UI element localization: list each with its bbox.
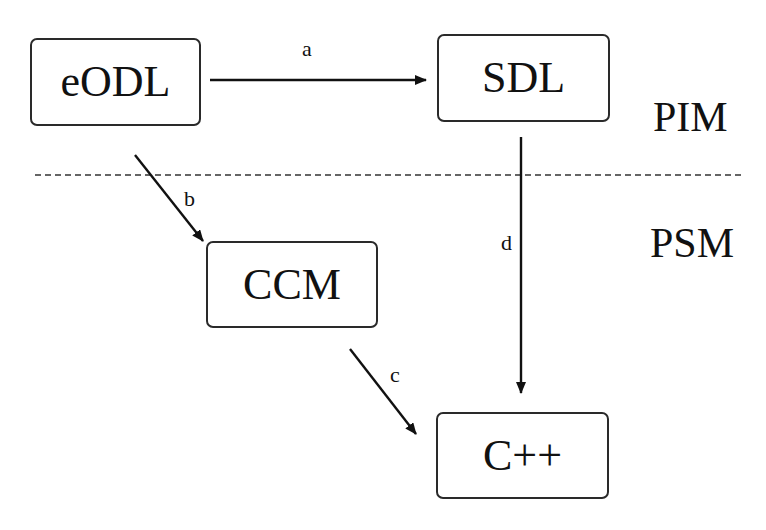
node-eodl-label: eODL bbox=[61, 60, 171, 104]
edge-d-label: d bbox=[501, 232, 512, 254]
edge-a-label: a bbox=[302, 38, 312, 60]
edge-c-label: c bbox=[390, 364, 400, 386]
edge-c-arrow bbox=[350, 349, 416, 434]
node-ccm-label: CCM bbox=[243, 263, 341, 307]
node-ccm: CCM bbox=[206, 241, 378, 328]
node-cpp-label: C++ bbox=[483, 434, 562, 478]
region-psm-label: PSM bbox=[650, 222, 734, 264]
edge-b-label: b bbox=[184, 188, 195, 210]
node-cpp: C++ bbox=[436, 412, 609, 499]
node-sdl: SDL bbox=[437, 34, 610, 122]
node-sdl-label: SDL bbox=[482, 56, 565, 100]
region-pim-label: PIM bbox=[653, 96, 728, 138]
node-eodl: eODL bbox=[30, 38, 201, 126]
